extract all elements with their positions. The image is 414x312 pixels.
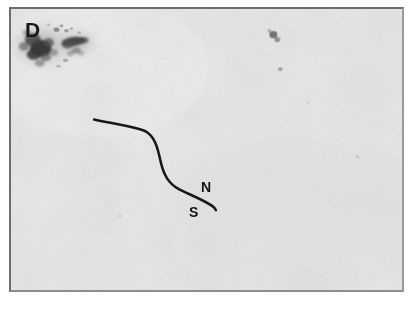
film-grain-overlay (11, 9, 402, 290)
figure-panel: D N S (0, 0, 414, 312)
panel-letter-d: D (25, 19, 40, 40)
north-polarity-label: N (201, 180, 211, 194)
sunspot-image-canvas (11, 9, 402, 290)
solar-sunspot-image (11, 9, 402, 290)
photographic-plate-frame: D N S (9, 7, 404, 292)
south-polarity-label: S (189, 205, 198, 219)
